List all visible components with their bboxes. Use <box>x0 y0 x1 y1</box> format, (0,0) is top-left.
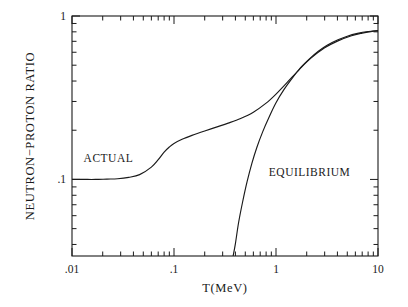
x-tick-label: 10 <box>372 263 384 275</box>
neutron-proton-ratio-chart: .01.1110 1.1 ACTUALEQUILIBRIUM T(MeV) NE… <box>0 0 408 307</box>
annotation-actual: ACTUAL <box>84 152 134 164</box>
x-tick-label: .01 <box>65 263 80 275</box>
y-tick-label: 1 <box>60 10 66 22</box>
x-tick-label: 1 <box>273 263 279 275</box>
annotation-equilibrium: EQUILIBRIUM <box>269 166 351 178</box>
y-tick-label: .1 <box>57 173 66 185</box>
chart-background <box>0 0 408 307</box>
y-axis-title: NEUTRON−PROTON RATIO <box>23 52 37 220</box>
chart-figure: .01.1110 1.1 ACTUALEQUILIBRIUM T(MeV) NE… <box>0 0 408 307</box>
x-axis-title: T(MeV) <box>202 281 247 295</box>
x-tick-label: .1 <box>170 263 179 275</box>
